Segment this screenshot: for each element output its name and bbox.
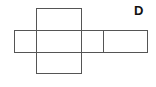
- back-face: [104, 31, 148, 53]
- diagram-label: D: [134, 3, 143, 18]
- bottom-face: [37, 53, 82, 74]
- top-face: [37, 9, 82, 31]
- right-face: [82, 31, 104, 53]
- cuboid-net-diagram: D: [0, 0, 156, 87]
- left-face: [15, 31, 37, 53]
- front-face: [37, 31, 82, 53]
